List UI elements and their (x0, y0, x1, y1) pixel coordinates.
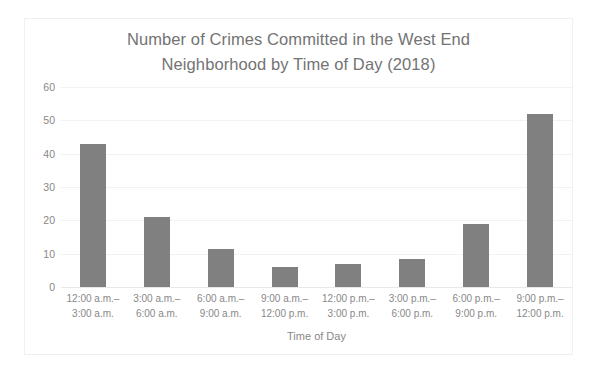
x-axis-tick-label-line: 3:00 a.m. (61, 306, 125, 321)
bar-slot (253, 87, 317, 287)
bar-slot (380, 87, 444, 287)
x-axis-tick-label-line: 12:00 a.m.– (61, 291, 125, 306)
y-axis-tick-label: 60 (43, 81, 55, 93)
y-axis-tick-label: 50 (43, 114, 55, 126)
bar-slot (317, 87, 381, 287)
x-axis-tick-label-line: 9:00 p.m.– (508, 291, 572, 306)
x-axis-tick-label: 6:00 a.m.–9:00 a.m. (189, 291, 253, 321)
x-axis-tick-labels: 12:00 a.m.–3:00 a.m.3:00 a.m.–6:00 a.m.6… (61, 291, 572, 333)
y-axis-tick-label: 0 (49, 281, 55, 293)
bar[interactable] (463, 224, 489, 287)
x-axis-tick-label: 9:00 p.m.–12:00 p.m. (508, 291, 572, 321)
bar[interactable] (80, 144, 106, 287)
x-axis-tick-label-line: 3:00 p.m. (317, 306, 381, 321)
x-axis-tick-label: 6:00 p.m.–9:00 p.m. (444, 291, 508, 321)
bar[interactable] (335, 264, 361, 287)
chart-title-line-2: Neighborhood by Time of Day (2018) (25, 52, 572, 77)
bar[interactable] (208, 249, 234, 287)
bar-slot (444, 87, 508, 287)
x-axis-tick-label-line: 3:00 a.m.– (125, 291, 189, 306)
bar-slot (189, 87, 253, 287)
bar[interactable] (399, 259, 425, 287)
gridline (61, 287, 572, 288)
x-axis-tick-label-line: 6:00 p.m. (380, 306, 444, 321)
chart-title: Number of Crimes Committed in the West E… (25, 27, 572, 77)
x-axis-tick-label: 3:00 a.m.–6:00 a.m. (125, 291, 189, 321)
x-axis-tick-label: 9:00 a.m.–12:00 p.m. (253, 291, 317, 321)
x-axis-tick-label-line: 9:00 a.m.– (253, 291, 317, 306)
bar[interactable] (144, 217, 170, 287)
x-axis-tick-label-line: 6:00 a.m. (125, 306, 189, 321)
x-axis-tick-label-line: 12:00 p.m. (508, 306, 572, 321)
bar-series (61, 87, 572, 287)
x-axis-tick-label-line: 6:00 a.m.– (189, 291, 253, 306)
x-axis-title: Time of Day (61, 330, 572, 342)
bar-slot (61, 87, 125, 287)
x-axis-tick-label-line: 12:00 p.m.– (317, 291, 381, 306)
x-axis-tick-label: 12:00 a.m.–3:00 a.m. (61, 291, 125, 321)
bar-slot (125, 87, 189, 287)
x-axis-tick-label-line: 6:00 p.m.– (444, 291, 508, 306)
y-axis-tick-label: 20 (43, 214, 55, 226)
plot-area: 0102030405060 (61, 87, 572, 287)
bar-slot (508, 87, 572, 287)
bar[interactable] (272, 267, 298, 287)
x-axis-tick-label-line: 12:00 p.m. (253, 306, 317, 321)
x-axis-tick-label: 12:00 p.m.–3:00 p.m. (317, 291, 381, 321)
chart-title-line-1: Number of Crimes Committed in the West E… (25, 27, 572, 52)
bar[interactable] (527, 114, 553, 287)
x-axis-tick-label-line: 3:00 p.m.– (380, 291, 444, 306)
x-axis-tick-label-line: 9:00 a.m. (189, 306, 253, 321)
y-axis-tick-label: 30 (43, 181, 55, 193)
y-axis-tick-label: 10 (43, 248, 55, 260)
chart-container: Number of Crimes Committed in the West E… (24, 18, 573, 355)
y-axis-tick-label: 40 (43, 148, 55, 160)
x-axis-tick-label-line: 9:00 p.m. (444, 306, 508, 321)
x-axis-tick-label: 3:00 p.m.–6:00 p.m. (380, 291, 444, 321)
